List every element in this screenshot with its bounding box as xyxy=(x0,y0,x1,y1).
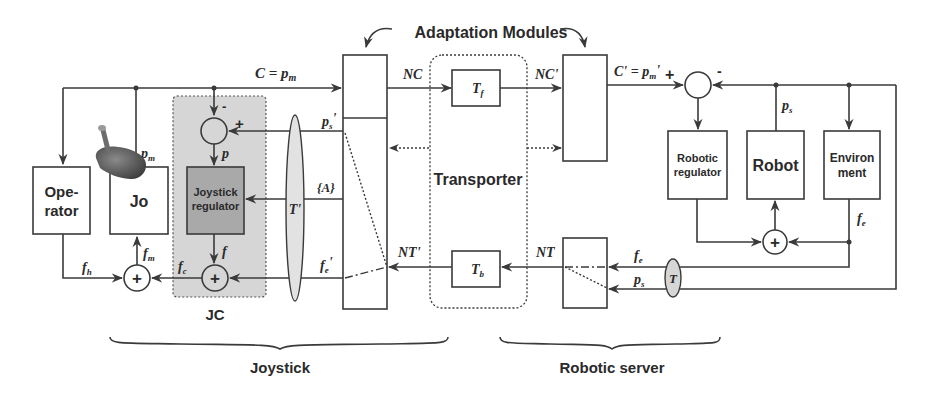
svg-text:regulator: regulator xyxy=(674,166,722,178)
jc-label: JC xyxy=(205,306,224,323)
svg-text:Ope-: Ope- xyxy=(44,183,78,200)
label-c-prime: C' = pm' xyxy=(614,63,660,81)
robotic-server-group-label: Robotic server xyxy=(559,359,664,376)
robotic-regulator-block xyxy=(668,131,727,199)
svg-text:T': T' xyxy=(289,202,302,217)
svg-text:-: - xyxy=(717,63,722,79)
svg-text:Robot: Robot xyxy=(752,157,799,174)
svg-text:NC: NC xyxy=(402,67,423,82)
transporter-label: Transporter xyxy=(434,171,523,188)
label-p: p xyxy=(221,146,229,161)
plus-sign: + xyxy=(235,115,244,132)
environment-block xyxy=(824,131,880,199)
svg-text:+: + xyxy=(770,233,780,252)
svg-text:fe: fe xyxy=(857,211,866,228)
joystick-regulator-label-2: regulator xyxy=(192,200,240,212)
joystick-image-icon xyxy=(96,125,146,179)
signal-regulator-out xyxy=(697,199,761,242)
title-arrow-left xyxy=(366,29,392,47)
svg-text:fe: fe xyxy=(634,248,643,265)
label-c-eq-pm: C = pm xyxy=(255,65,297,83)
svg-text:Robotic: Robotic xyxy=(677,152,718,164)
svg-text:ps: ps xyxy=(633,272,645,289)
label-ps-prime: ps' xyxy=(321,111,337,131)
teleoperation-block-diagram: Adaptation Modules JC Transporter C = pm… xyxy=(0,0,928,393)
label-a-set: {A} xyxy=(317,180,335,195)
svg-text:+: + xyxy=(210,269,220,288)
svg-text:Jo: Jo xyxy=(130,193,149,210)
svg-text:NC': NC' xyxy=(534,67,558,82)
adaptation-module-right-forward xyxy=(563,55,607,161)
joystick-brace xyxy=(110,337,448,349)
svg-text:ps: ps xyxy=(781,98,793,115)
joystick-group-label: Joystick xyxy=(250,359,311,376)
label-fe-prime: fe' xyxy=(320,255,333,275)
operator-block xyxy=(33,167,90,234)
svg-text:Adaptation Modules: Adaptation Modules xyxy=(415,24,568,41)
signal-fe-line xyxy=(609,199,849,267)
signal-fh-line xyxy=(63,234,122,278)
svg-text:NT': NT' xyxy=(397,245,421,260)
svg-text:+: + xyxy=(132,269,142,288)
svg-text:Environ: Environ xyxy=(830,151,875,165)
label-fm: fm xyxy=(143,246,155,263)
svg-text:+: + xyxy=(665,66,674,83)
label-fh: fh xyxy=(82,260,92,277)
adaptation-module-right-backward xyxy=(563,238,607,308)
svg-text:ment: ment xyxy=(838,166,867,180)
robotic-server-brace xyxy=(500,337,720,349)
joystick-regulator-label-1: Joystick xyxy=(193,186,238,198)
minus-sign: - xyxy=(222,99,226,114)
svg-text:T: T xyxy=(669,271,678,286)
adaptation-module-left xyxy=(343,55,387,309)
adaptation-modules-title: Adaptation Modules xyxy=(366,24,585,47)
svg-text:rator: rator xyxy=(44,202,78,219)
robot-comparator xyxy=(685,72,711,98)
svg-text:NT: NT xyxy=(535,245,556,260)
